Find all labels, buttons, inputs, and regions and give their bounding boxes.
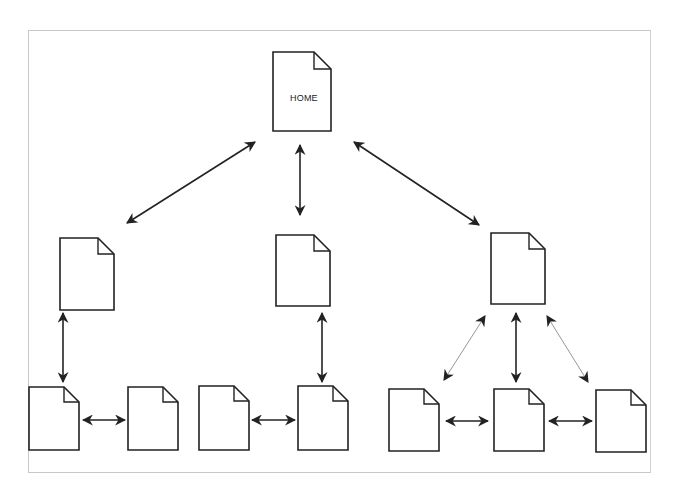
page-node-leaf-7 — [596, 390, 646, 452]
home-page-label: HOME — [290, 93, 318, 103]
page-node-mid-right — [491, 233, 545, 304]
document-icon — [491, 233, 545, 304]
document-icon — [29, 387, 79, 450]
page-node-leaf-6 — [494, 389, 544, 451]
document-icon — [60, 238, 114, 310]
document-icon — [298, 386, 348, 450]
document-icon — [199, 386, 249, 450]
site-map-diagram — [0, 0, 677, 492]
bidirectional-arrow-home-mid-left — [127, 142, 255, 223]
document-icon — [273, 52, 331, 131]
page-node-leaf-1 — [29, 387, 79, 450]
page-nodes — [29, 52, 646, 452]
document-icon — [596, 390, 646, 452]
page-node-leaf-2 — [128, 387, 178, 450]
bidirectional-arrow-mid-right-leaf-7 — [547, 316, 588, 382]
document-icon — [276, 235, 330, 306]
page-node-leaf-5 — [389, 389, 439, 451]
page-node-home — [273, 52, 331, 131]
document-icon — [128, 387, 178, 450]
page-node-leaf-4 — [298, 386, 348, 450]
document-icon — [494, 389, 544, 451]
page-node-mid-center — [276, 235, 330, 306]
bidirectional-arrow-home-mid-right — [354, 142, 479, 225]
bidirectional-arrow-mid-right-leaf-5 — [444, 316, 485, 380]
document-icon — [389, 389, 439, 451]
page-node-mid-left — [60, 238, 114, 310]
page-node-leaf-3 — [199, 386, 249, 450]
